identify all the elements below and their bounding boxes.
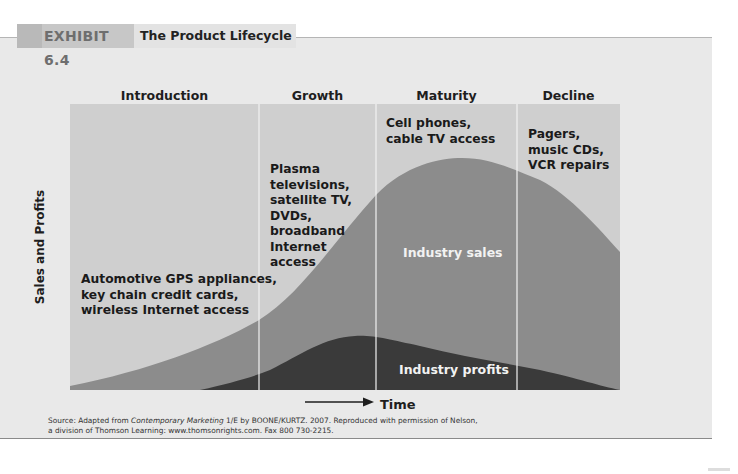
- x-axis-label: Time: [380, 397, 416, 412]
- header-stub: [17, 24, 42, 48]
- annotation-growth: Plasma televisions, satellite TV, DVDs, …: [270, 162, 352, 271]
- label-industry-profits: Industry profits: [399, 362, 509, 377]
- page-marker: [708, 468, 730, 471]
- source-prefix: Source: Adapted from: [48, 416, 131, 425]
- annotation-introduction: Automotive GPS appliances, key chain cre…: [81, 272, 277, 319]
- source-line2: a division of Thomson Learning: www.thom…: [48, 426, 334, 435]
- source-citation: Source: Adapted from Contemporary Market…: [48, 416, 608, 436]
- annotation-maturity: Cell phones, cable TV access: [386, 116, 495, 147]
- label-industry-sales: Industry sales: [403, 245, 503, 260]
- lifecycle-chart: [0, 0, 738, 474]
- source-book-title: Contemporary Marketing: [131, 416, 224, 425]
- annotation-decline: Pagers, music CDs, VCR repairs: [528, 127, 609, 174]
- exhibit-number: EXHIBIT 6.4: [42, 24, 134, 48]
- source-suffix: 1/E by BOONE/KURTZ. 2007. Reproduced wit…: [224, 416, 478, 425]
- time-arrow-head-icon: [363, 398, 374, 407]
- exhibit-header: EXHIBIT 6.4 The Product Lifecycle: [17, 24, 296, 48]
- exhibit-title: The Product Lifecycle: [134, 24, 296, 48]
